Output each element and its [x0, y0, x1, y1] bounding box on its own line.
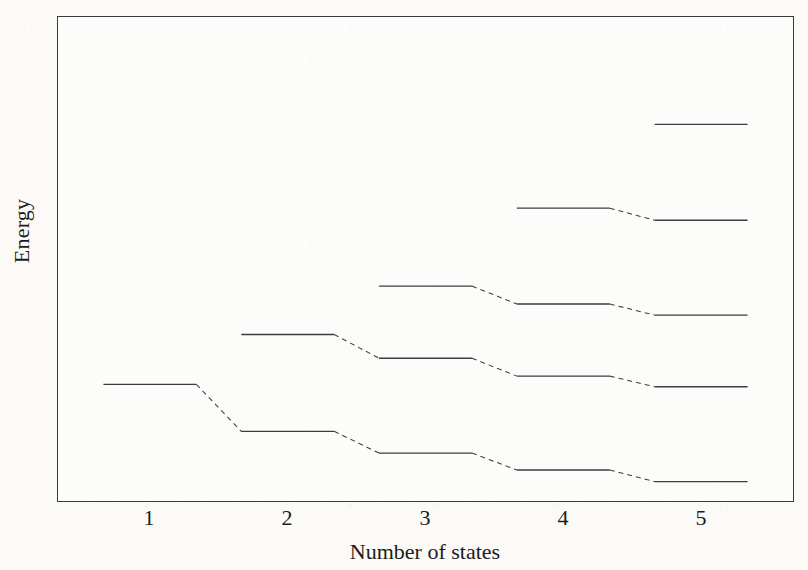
correlation-dashed-line [610, 208, 655, 220]
correlation-dashed-line [196, 384, 241, 431]
correlation-dashed-line [334, 335, 379, 359]
correlation-dashed-line [610, 304, 655, 315]
x-tick-label: 5 [696, 506, 707, 530]
correlation-dashed-line [610, 470, 655, 482]
figure-page: Energy 12345 Number of states [0, 0, 808, 570]
x-tick-label: 4 [558, 506, 569, 530]
x-tick-label: 3 [420, 506, 431, 530]
y-axis-label: Energy [9, 199, 35, 263]
correlation-dashed-line [472, 453, 517, 470]
x-axis-label: Number of states [350, 539, 500, 565]
correlation-dashed-line [472, 286, 517, 304]
energy-levels-chart [58, 17, 793, 501]
correlation-dashed-line [610, 376, 655, 387]
correlation-dashed-line [334, 431, 379, 453]
x-tick-label: 1 [144, 506, 155, 530]
plot-area [57, 16, 794, 502]
correlation-dashed-line [472, 358, 517, 376]
x-tick-label: 2 [282, 506, 293, 530]
